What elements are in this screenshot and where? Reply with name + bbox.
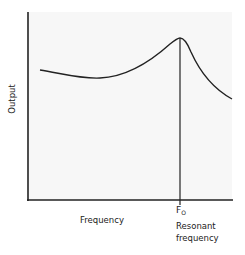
x-axis-label: Frequency [80, 215, 124, 225]
output-curve [40, 38, 232, 99]
y-axis-label: Output [7, 79, 17, 119]
f0-label: FO [176, 205, 186, 216]
f0-subscript: O [181, 209, 186, 216]
resonant-label-line2: frequency [176, 232, 219, 244]
resonant-frequency-label: Resonant frequency [176, 220, 219, 244]
resonant-label-line1: Resonant [176, 220, 219, 232]
